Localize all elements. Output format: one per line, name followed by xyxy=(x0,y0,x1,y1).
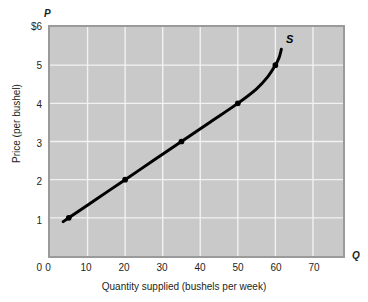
data-point-marker xyxy=(122,177,128,183)
y-axis-title: Price (per bushel) xyxy=(11,64,22,184)
x-tick-label-20: 20 xyxy=(111,262,137,273)
x-tick-label-50: 50 xyxy=(225,262,251,273)
supply-curve-line xyxy=(63,49,281,222)
x-tick-label-10: 10 xyxy=(73,262,99,273)
x-axis-title: Quantity supplied (bushels per week) xyxy=(0,281,368,292)
data-point-marker xyxy=(179,139,185,145)
y-tick-label-1: 1 xyxy=(16,215,42,226)
x-tick-label-70: 70 xyxy=(301,262,327,273)
y-tick-label-6: $6 xyxy=(16,21,42,32)
x-tick-label-30: 30 xyxy=(149,262,175,273)
plot-canvas xyxy=(50,27,343,256)
supply-curve-label: S xyxy=(286,33,293,45)
supply-curve-series xyxy=(63,49,281,222)
y-axis-symbol: P xyxy=(44,8,51,19)
plot-area xyxy=(48,25,345,258)
data-point-marker xyxy=(235,100,241,106)
x-axis-symbol: Q xyxy=(352,250,360,261)
gridlines xyxy=(50,27,343,256)
x-tick-label-0: 0 xyxy=(35,262,61,273)
supply-curve-figure: P Q $6 5 4 3 2 1 0 0 10 20 30 40 50 60 7… xyxy=(0,0,368,302)
x-tick-label-60: 60 xyxy=(263,262,289,273)
data-point-marker xyxy=(273,62,279,68)
data-point-marker xyxy=(66,215,72,221)
x-tick-label-40: 40 xyxy=(187,262,213,273)
